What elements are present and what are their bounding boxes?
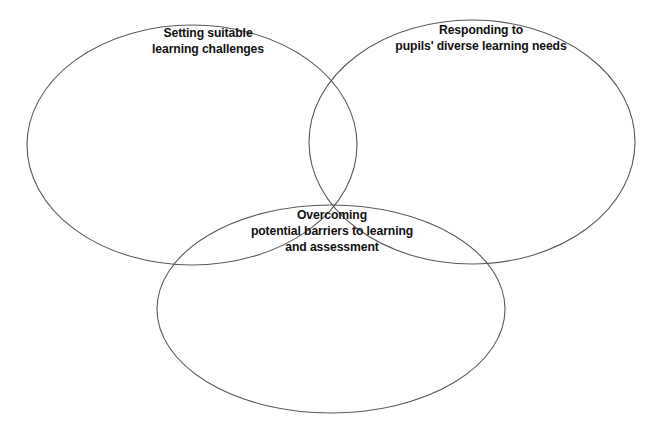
label-setting-line-2: learning challenges <box>96 41 320 57</box>
label-overcoming-potential-barriers-to-learning-and-assessment: Overcoming potential barriers to learnin… <box>218 207 446 255</box>
label-setting-line-1: Setting suitable <box>96 25 320 41</box>
label-responding-line-1: Responding to <box>362 22 600 38</box>
label-setting-suitable-learning-challenges: Setting suitable learning challenges <box>96 25 320 57</box>
label-responding-to-pupils-diverse-learning-needs: Responding to pupils' diverse learning n… <box>362 22 600 54</box>
label-responding-line-2: pupils' diverse learning needs <box>362 38 600 54</box>
label-overcoming-line-3: and assessment <box>218 239 446 255</box>
label-overcoming-line-1: Overcoming <box>218 207 446 223</box>
venn-diagram: Setting suitable learning challenges Res… <box>0 0 659 445</box>
label-overcoming-line-2: potential barriers to learning <box>218 223 446 239</box>
